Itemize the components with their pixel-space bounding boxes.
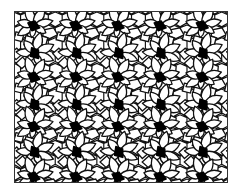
tessellation-pattern xyxy=(15,12,227,182)
hub xyxy=(30,147,38,158)
hub xyxy=(157,48,165,59)
hub xyxy=(115,99,123,110)
hub xyxy=(115,48,123,59)
hub xyxy=(72,48,80,59)
pattern-frame xyxy=(14,11,228,183)
hub xyxy=(199,99,207,110)
hub xyxy=(199,48,207,59)
hub xyxy=(157,99,165,110)
hub xyxy=(30,99,38,110)
hub xyxy=(199,147,207,158)
hub xyxy=(157,147,165,158)
hub xyxy=(30,48,38,59)
hub xyxy=(72,147,80,158)
hub xyxy=(72,99,80,110)
hub xyxy=(115,147,123,158)
